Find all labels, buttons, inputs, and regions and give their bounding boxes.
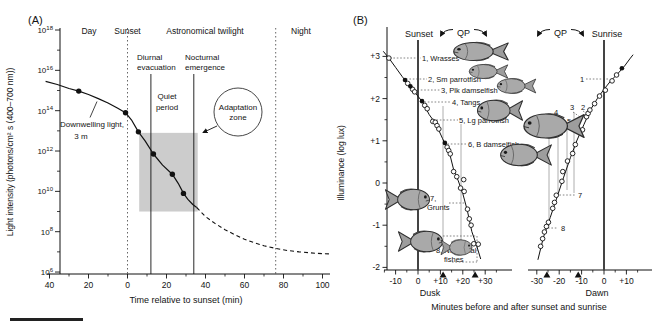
dusk-x-tick-label: -10 [389,276,402,286]
band-label-day: Day [81,26,97,36]
dawn-open-point [546,220,551,225]
dawn-number-1: 1 [580,75,584,84]
dusk-open-point [448,152,453,157]
species-label-wrasses: 1, Wrasses [422,54,460,63]
adaptation-zone-arrow [203,126,217,133]
dawn-open-point [592,101,597,106]
panel-b: +3+2+10-1-2-100+10+20+30-30-20-100+10 (B… [336,14,652,312]
dawn-x-tick-label: 0 [602,276,607,286]
band-label-sunset: Sunset [114,26,141,36]
panel-a-y-axis-title: Light intensity (photons/cm² s (400–700 … [5,68,15,237]
dawn-number-8: 8 [561,224,565,233]
qp-triangle-marker [472,272,479,278]
fish-tangs-icon [477,100,522,121]
qp-arrow-dawn-left [538,30,551,37]
panel-a-y-tick-label: 108 [41,226,54,237]
panel-a-y-tick-label: 1016 [37,65,53,76]
qp-arrow-dusk-left [441,30,454,37]
measurement-dot [170,172,175,177]
dusk-open-point [469,223,474,228]
dawn-open-point [552,200,557,205]
dusk-filled-point [420,99,425,104]
measurement-dot [136,129,141,134]
dawn-number-3: 3 [570,103,574,112]
diurnal-evacuation-label-line2: evacuation [137,63,176,72]
panel-b-y-tick-label: -2 [372,262,380,272]
sunset-header: Sunset [405,29,434,39]
panel-a-y-tick-label: 1018 [37,25,53,36]
dusk-open-point [387,56,392,61]
dawn-open-point [565,159,570,164]
qp-triangle-marker [575,272,582,278]
qp-label-dusk: QP [457,28,470,38]
species-label-grunts-line1: 7, [430,194,436,203]
panel-a-x-tick-label: 40 [201,280,211,290]
panel-b-tag: (B) [353,14,368,26]
measurement-dot [151,151,156,156]
panel-a-x-tick-label: 0 [125,280,130,290]
panel-b-y-tick-label: +1 [370,136,380,146]
dusk-axis-label: Dusk [420,288,441,298]
dusk-open-point [461,177,466,182]
panel-b-y-tick-label: 0 [375,178,380,188]
panel-a-x-tick-label: 20 [162,280,172,290]
dusk-open-point [437,127,442,132]
dusk-open-point [476,242,481,247]
dawn-open-point [550,206,555,211]
panel-a-y-tick-label: 1010 [37,186,53,197]
panel-a-x-tick-label: 40 [45,280,55,290]
sunrise-header: Sunrise [592,29,623,39]
dusk-x-tick-label: 0 [416,276,421,286]
panel-a-y-tick-label: 106 [41,267,54,278]
dusk-open-point [462,189,467,194]
dusk-open-point [412,90,417,95]
dawn-x-tick-label: -20 [553,276,566,286]
downwelling-label-line1: Downwelling light, [60,120,124,129]
dusk-open-point [465,207,470,212]
dawn-filled-point [620,66,625,71]
quiet-period-label-line2: period [156,103,178,112]
fish-b-damselfish-icon [501,144,552,166]
nocturnal-emergence-label-line2: emergence [185,63,226,72]
dusk-filled-point [443,141,448,146]
dawn-open-point [588,108,593,113]
figure-svg: 1018101610141012101010810640200204060801… [0,0,658,322]
diurnal-evacuation-label-line1: Diurnal [137,53,163,62]
fish-wrasses-icon [454,42,509,60]
fish-sm-parrotfish-icon [469,64,508,78]
adaptation-zone-label-line1: Adaptation [219,103,257,112]
dawn-number-2: 2 [581,103,585,112]
panel-a-x-axis-title: Time relative to sunset (min) [129,295,242,305]
fish-nocturnal-1-icon [398,231,442,252]
measurement-dot [76,88,81,93]
fish-lg-parrotfish-icon [524,114,584,139]
adaptation-zone-label-line2: zone [229,113,247,122]
dawn-axis-label: Dawn [585,288,608,298]
panel-a-plot-dynamic: 1018101610141012101010810640200204060801… [37,25,330,291]
panel-a-y-tick-label: 1014 [37,105,53,116]
species-label-tangs: 4, Tangs [452,98,480,107]
qp-label-dawn: QP [554,28,567,38]
panel-a-x-tick-label: 20 [84,280,94,290]
downwelling-leader-line [90,102,97,118]
species-label-nocturnal-line2: fishes [444,255,464,264]
dawn-open-point [538,244,543,249]
panel-a-x-tick-label: 60 [240,280,250,290]
dawn-open-point [542,230,547,235]
dawn-open-point [610,79,615,84]
panel-b-y-tick-label: +3 [370,51,380,61]
dawn-open-point [540,236,545,241]
dusk-open-point [451,169,456,174]
panel-b-x-axis-title: Minutes before and after sunset and sunr… [431,302,607,312]
dusk-x-tick-label: +30 [478,276,493,286]
panel-a-x-tick-label: 100 [315,280,329,290]
nocturnal-emergence-label-line1: Nocturnal [185,53,219,62]
dawn-x-tick-label: -30 [531,276,544,286]
dawn-open-point [603,88,608,93]
figure-canvas: 1018101610141012101010810640200204060801… [0,0,658,322]
dusk-open-point [467,217,472,222]
panel-b-y-tick-label: -1 [372,220,380,230]
dusk-filled-point [403,78,408,83]
downwelling-curve-dashed [197,208,330,254]
panel-a-y-tick-label: 1012 [37,146,53,157]
